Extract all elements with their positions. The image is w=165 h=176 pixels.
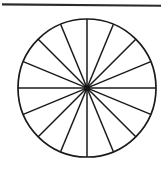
circle-center-point xyxy=(84,85,90,91)
sector-circle-figure xyxy=(0,0,165,176)
circle-group xyxy=(18,19,156,157)
horizontal-rule-line xyxy=(2,4,161,5)
top-rule-group xyxy=(2,4,161,5)
diagram-canvas xyxy=(0,0,165,176)
